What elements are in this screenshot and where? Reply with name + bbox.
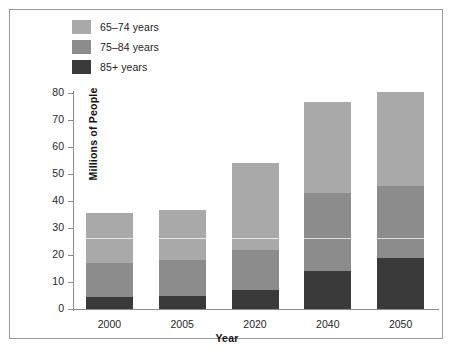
bar-segment-2040-65-74-years[interactable] <box>304 102 351 192</box>
y-tick-0 <box>68 309 73 310</box>
plot-area: 01020304050607080 <box>73 93 437 309</box>
x-tick-label-2000: 2000 <box>79 318 139 330</box>
y-tick-label-0: 0 <box>40 302 64 314</box>
x-axis-title: Year <box>0 332 454 344</box>
bar-segment-2040-75-84-years[interactable] <box>304 193 351 271</box>
y-tick-20 <box>68 255 73 256</box>
legend-label-85-plus: 85+ years <box>100 61 147 73</box>
y-tick-label-10: 10 <box>40 275 64 287</box>
bar-2005[interactable] <box>159 93 206 309</box>
legend-label-65-74: 65–74 years <box>100 21 159 33</box>
y-tick-10 <box>68 282 73 283</box>
x-axis-line <box>71 309 439 310</box>
legend-item-75-84: 75–84 years <box>72 37 252 56</box>
bar-2020[interactable] <box>232 93 279 309</box>
y-tick-label-60: 60 <box>40 140 64 152</box>
y-tick-40 <box>68 201 73 202</box>
bar-segment-2005-65-74-years[interactable] <box>159 210 206 260</box>
bar-segment-2020-75-84-years[interactable] <box>232 250 279 291</box>
x-tick-label-2050: 2050 <box>371 318 431 330</box>
y-tick-70 <box>68 120 73 121</box>
bar-2050[interactable] <box>377 93 424 309</box>
x-tick-label-2040: 2040 <box>298 318 358 330</box>
x-tick-label-2005: 2005 <box>152 318 212 330</box>
y-tick-30 <box>68 228 73 229</box>
y-tick-label-40: 40 <box>40 194 64 206</box>
bar-2040[interactable] <box>304 93 351 309</box>
y-tick-label-80: 80 <box>40 86 64 98</box>
bar-segment-2040-85+-years[interactable] <box>304 271 351 309</box>
bar-segment-2020-65-74-years[interactable] <box>232 163 279 249</box>
legend-item-65-74: 65–74 years <box>72 17 252 36</box>
bar-segment-2000-75-84-years[interactable] <box>86 263 133 297</box>
bar-segment-2005-75-84-years[interactable] <box>159 260 206 295</box>
chart-legend: 65–74 years 75–84 years 85+ years <box>72 17 252 77</box>
y-tick-label-30: 30 <box>40 221 64 233</box>
y-tick-50 <box>68 174 73 175</box>
y-tick-60 <box>68 147 73 148</box>
x-tick-label-2020: 2020 <box>225 318 285 330</box>
legend-swatch-75-84-icon <box>72 40 91 54</box>
legend-label-75-84: 75–84 years <box>100 41 159 53</box>
y-tick-label-20: 20 <box>40 248 64 260</box>
bar-segment-2000-65-74-years[interactable] <box>86 213 133 263</box>
y-tick-label-50: 50 <box>40 167 64 179</box>
legend-item-85-plus: 85+ years <box>72 57 252 76</box>
bar-segment-2050-75-84-years[interactable] <box>377 186 424 258</box>
y-tick-80 <box>68 93 73 94</box>
bar-segment-2020-85+-years[interactable] <box>232 290 279 309</box>
y-axis-line <box>73 91 74 311</box>
bar-2000[interactable] <box>86 93 133 309</box>
bar-segment-2050-65-74-years[interactable] <box>377 92 424 187</box>
y-tick-label-70: 70 <box>40 113 64 125</box>
chart-figure: 65–74 years 75–84 years 85+ years Millio… <box>0 0 454 358</box>
legend-swatch-65-74-icon <box>72 20 91 34</box>
bar-segment-2050-85+-years[interactable] <box>377 258 424 309</box>
bar-segment-2005-85+-years[interactable] <box>159 296 206 310</box>
bar-segment-2000-85+-years[interactable] <box>86 297 133 309</box>
